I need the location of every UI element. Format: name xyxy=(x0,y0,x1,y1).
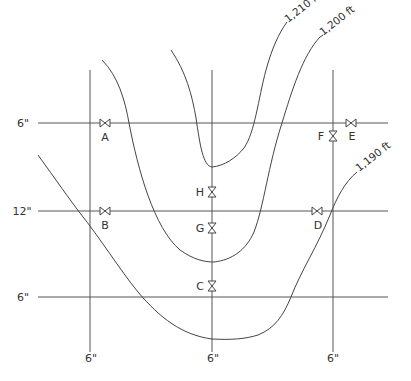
valve-icon xyxy=(100,207,110,215)
valve-f[interactable]: F xyxy=(318,130,337,143)
contour-label-1190: 1,190 ft xyxy=(353,139,393,174)
valve-icon xyxy=(208,223,216,233)
pipe-size-label-top: 6" xyxy=(17,117,29,130)
valve-label: C xyxy=(196,280,204,293)
valve-icon xyxy=(208,187,216,197)
pipe-size-label-bottom: 6" xyxy=(17,291,29,304)
piping-contour-diagram: 6" 12" 6" 6" 6" 6" 1,210 ft 1,200 ft 1,1… xyxy=(0,0,411,381)
valve-label: E xyxy=(349,130,356,143)
valve-icon xyxy=(329,131,337,141)
pipe-size-label-left: 6" xyxy=(85,352,97,365)
valve-c[interactable]: C xyxy=(196,280,216,293)
valve-h[interactable]: H xyxy=(196,186,216,199)
pipe-size-label-center: 6" xyxy=(207,352,219,365)
valve-label: G xyxy=(196,222,205,235)
contour-label-1210: 1,210 ft xyxy=(282,0,322,25)
contour-1200 xyxy=(102,37,320,262)
valve-label: A xyxy=(101,131,109,144)
valve-label: H xyxy=(196,186,204,199)
valve-a[interactable]: A xyxy=(100,119,110,144)
pipe-size-label-right: 6" xyxy=(327,352,339,365)
contour-1210 xyxy=(171,22,287,167)
valve-g[interactable]: G xyxy=(196,222,216,235)
valve-e[interactable]: E xyxy=(346,119,356,143)
valve-icon xyxy=(100,119,110,127)
contour-1190 xyxy=(38,155,357,339)
valve-icon xyxy=(312,207,322,215)
valve-icon xyxy=(208,281,216,291)
valve-b[interactable]: B xyxy=(100,207,110,232)
pipe-size-label-middle: 12" xyxy=(12,205,31,218)
valve-label: D xyxy=(314,219,322,232)
valve-label: F xyxy=(318,130,324,143)
valve-label: B xyxy=(101,219,109,232)
valve-d[interactable]: D xyxy=(312,207,322,232)
contour-label-1200: 1,200 ft xyxy=(317,3,357,38)
valve-icon xyxy=(346,119,356,127)
